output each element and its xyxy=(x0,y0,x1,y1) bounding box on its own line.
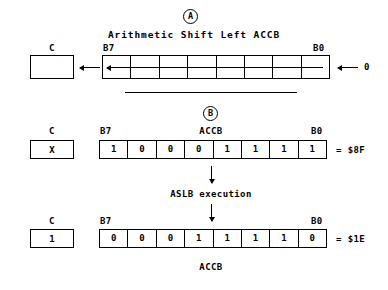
panel-b-before-msb-label: B7 xyxy=(100,126,112,136)
panel-b-before-lsb-label: B0 xyxy=(311,126,323,136)
panel-b-after-lsb-label: B0 xyxy=(311,216,323,226)
panel-b-after-bit-3: 1 xyxy=(214,230,242,247)
operation-arrow-top xyxy=(211,166,212,183)
panel-b-after-hex-value: = $1E xyxy=(336,234,365,244)
panel-b-before-carry-label: C xyxy=(49,126,55,136)
panel-b-before-bit-7: 1 xyxy=(100,141,128,158)
panel-b-before-bit-6: 0 xyxy=(128,141,156,158)
panel-a-shift-in-value: 0 xyxy=(364,62,370,72)
panel-b-before-bit-2: 1 xyxy=(242,141,270,158)
panel-b-after-accumulator-name: ACCB xyxy=(199,262,222,272)
operation-arrow-bottom xyxy=(211,204,212,221)
panel-b-after-bit-1: 1 xyxy=(270,230,298,247)
panel-b-before-carry-box: X xyxy=(30,140,74,159)
panel-a-carry-label: C xyxy=(49,43,55,53)
panel-b-after-bit-0: 0 xyxy=(299,230,326,247)
panel-b-after-carry-label: C xyxy=(49,216,55,226)
panel-b-before-register: 1 0 0 0 1 1 1 1 xyxy=(99,140,327,159)
panel-b-after-bit-7: 0 xyxy=(100,230,128,247)
panel-a-internal-shift-arrow xyxy=(107,67,323,68)
panel-a-shift-in-arrow xyxy=(338,67,358,68)
panel-b-after-register: 0 0 0 1 1 1 1 0 xyxy=(99,229,327,248)
panel-b-after-bit-2: 1 xyxy=(242,230,270,247)
panel-b-before-accumulator-name: ACCB xyxy=(199,126,222,136)
panel-b-after-bit-4: 1 xyxy=(185,230,213,247)
panel-b-after-msb-label: B7 xyxy=(100,216,112,226)
panel-b-after-carry-box: 1 xyxy=(30,229,74,248)
panel-b-before-bit-1: 1 xyxy=(270,141,298,158)
panel-a-carry-out-arrow xyxy=(80,67,100,68)
step-a-marker: A xyxy=(183,9,198,24)
panel-a-underbar xyxy=(125,92,297,93)
diagram-title: Arithmetic Shift Left ACCB xyxy=(108,30,280,40)
panel-b-before-hex-value: = $8F xyxy=(336,145,365,155)
operation-label: ASLB execution xyxy=(170,189,251,199)
panel-b-before-bit-5: 0 xyxy=(157,141,185,158)
panel-a-lsb-label: B0 xyxy=(313,43,325,53)
panel-a-carry-box xyxy=(30,55,74,79)
panel-b-after-bit-5: 0 xyxy=(157,230,185,247)
step-b-marker: B xyxy=(203,106,218,121)
panel-a-msb-label: B7 xyxy=(103,43,115,53)
panel-b-after-bit-6: 0 xyxy=(128,230,156,247)
panel-b-before-bit-0: 1 xyxy=(299,141,326,158)
panel-b-before-bit-3: 1 xyxy=(214,141,242,158)
panel-b-before-bit-4: 0 xyxy=(185,141,213,158)
